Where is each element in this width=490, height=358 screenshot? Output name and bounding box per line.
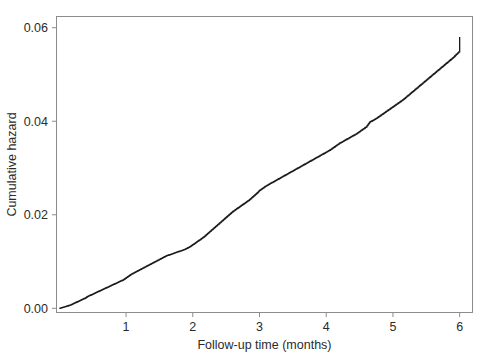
- x-tick-label: 3: [256, 320, 263, 334]
- y-tick-label: 0.06: [24, 21, 48, 35]
- x-tick-label: 6: [456, 320, 463, 334]
- x-tick-label: 2: [189, 320, 196, 334]
- x-tick-label: 5: [389, 320, 396, 334]
- x-tick-label: 4: [323, 320, 330, 334]
- cumulative-hazard-chart: 123456 0.000.020.040.06 Follow-up time (…: [0, 0, 490, 358]
- x-axis-title: Follow-up time (months): [197, 338, 331, 352]
- y-axis-title: Cumulative hazard: [5, 112, 19, 216]
- y-tick-label: 0.00: [24, 302, 48, 316]
- y-tick-label: 0.04: [24, 115, 48, 129]
- x-tick-label: 1: [123, 320, 130, 334]
- y-tick-label: 0.02: [24, 208, 48, 222]
